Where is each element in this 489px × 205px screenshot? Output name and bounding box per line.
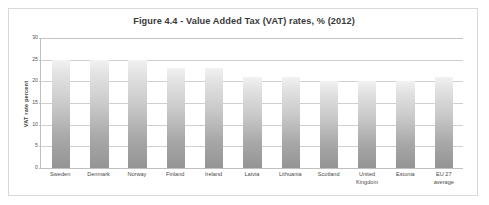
x-axis-label: Sweden xyxy=(41,171,79,186)
x-axis-label: Scotland xyxy=(310,171,348,186)
y-tick-mark xyxy=(39,60,41,61)
y-tick-label: 30 xyxy=(32,35,38,40)
y-axis-title: VAT rate percent xyxy=(21,38,31,169)
plot-area: 302520151050 xyxy=(40,38,463,169)
bar[interactable] xyxy=(435,77,453,168)
y-tick-label: 25 xyxy=(32,57,38,62)
bar-slot xyxy=(233,38,271,168)
bar[interactable] xyxy=(396,81,414,168)
bar-slot xyxy=(310,38,348,168)
bar-slot xyxy=(80,38,118,168)
y-tick-label: 0 xyxy=(35,165,38,170)
y-axis-title-text: VAT rate percent xyxy=(23,80,29,126)
bar[interactable] xyxy=(52,60,70,168)
y-tick-mark xyxy=(39,103,41,104)
x-axis-label: United Kingdom xyxy=(348,171,386,186)
bar-slot xyxy=(386,38,424,168)
x-axis-labels-group: SwedenDenmarkNorwayFinlandIrelandLatviaL… xyxy=(41,171,463,186)
y-tick-label: 10 xyxy=(32,122,38,127)
x-axis-label: Ireland xyxy=(194,171,232,186)
bars-group xyxy=(42,38,463,168)
bar-slot xyxy=(348,38,386,168)
y-tick-mark xyxy=(39,146,41,147)
bar-slot xyxy=(272,38,310,168)
x-axis-label: EU 27 average xyxy=(425,171,463,186)
x-axis-label: Norway xyxy=(118,171,156,186)
bar-slot xyxy=(195,38,233,168)
y-tick-label: 5 xyxy=(35,144,38,149)
bar[interactable] xyxy=(320,81,338,168)
y-tick-label: 15 xyxy=(32,100,38,105)
bar-slot xyxy=(425,38,463,168)
y-tick-mark xyxy=(39,168,41,169)
bar[interactable] xyxy=(358,81,376,168)
bar[interactable] xyxy=(282,77,300,168)
bar-slot xyxy=(42,38,80,168)
x-axis-label: Latvia xyxy=(233,171,271,186)
y-tick-mark xyxy=(39,81,41,82)
x-axis-label: Lithuania xyxy=(271,171,309,186)
chart-title: Figure 4.4 - Value Added Tax (VAT) rates… xyxy=(9,16,479,26)
bar-slot xyxy=(157,38,195,168)
y-tick-mark xyxy=(39,125,41,126)
bar[interactable] xyxy=(205,68,223,168)
x-axis-label: Estonia xyxy=(386,171,424,186)
figure-container: Figure 4.4 - Value Added Tax (VAT) rates… xyxy=(0,0,489,205)
y-tick-label: 20 xyxy=(32,79,38,84)
bar[interactable] xyxy=(128,60,146,168)
chart-frame: Figure 4.4 - Value Added Tax (VAT) rates… xyxy=(8,8,478,196)
bar-slot xyxy=(119,38,157,168)
x-axis-label: Finland xyxy=(156,171,194,186)
bar[interactable] xyxy=(167,68,185,168)
bar[interactable] xyxy=(243,77,261,168)
y-tick-mark xyxy=(39,38,41,39)
x-axis-label: Denmark xyxy=(79,171,117,186)
bar[interactable] xyxy=(90,60,108,168)
